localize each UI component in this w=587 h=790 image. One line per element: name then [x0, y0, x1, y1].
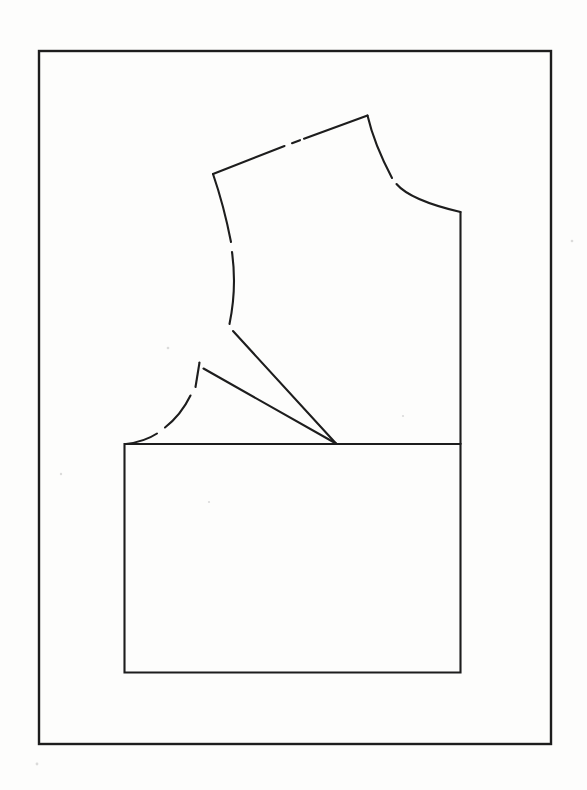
dart-leg-lower — [204, 369, 337, 444]
neckline-segment-2 — [397, 184, 461, 212]
print-speck — [60, 473, 62, 475]
neckline-segment-1 — [368, 116, 393, 179]
print-speck — [402, 415, 404, 417]
print-speck — [208, 501, 210, 503]
shoulder-seam-dash — [292, 140, 300, 143]
side-seam-dash-2 — [165, 396, 191, 428]
pattern-diagram-svg — [0, 0, 587, 790]
slash-line-upper — [233, 331, 336, 444]
shoulder-seam-segment-2 — [304, 116, 368, 139]
lower-section-outline — [125, 444, 461, 673]
print-speck — [167, 347, 170, 350]
print-speck — [36, 763, 39, 766]
print-speck — [571, 240, 574, 243]
shoulder-seam-segment-1 — [213, 146, 285, 174]
scanned-page — [0, 0, 587, 790]
armhole-segment-2 — [230, 252, 235, 324]
armhole-segment-1 — [213, 174, 231, 242]
side-seam-dash-1 — [196, 363, 200, 388]
side-seam-dash-3 — [126, 434, 157, 445]
